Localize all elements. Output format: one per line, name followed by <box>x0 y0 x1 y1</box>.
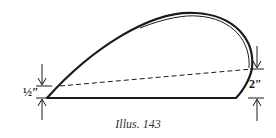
figure-caption: Illus. 143 <box>114 117 160 131</box>
illustration: ½″ 2″ Illus. 143 <box>0 0 276 138</box>
right-dimension: 2″ <box>248 46 264 121</box>
dashed-reference-line <box>60 69 252 86</box>
left-dimension: ½″ <box>23 64 52 120</box>
right-dimension-label: 2″ <box>249 77 262 91</box>
teardrop-outline <box>47 13 252 98</box>
left-dimension-label: ½″ <box>23 85 39 99</box>
